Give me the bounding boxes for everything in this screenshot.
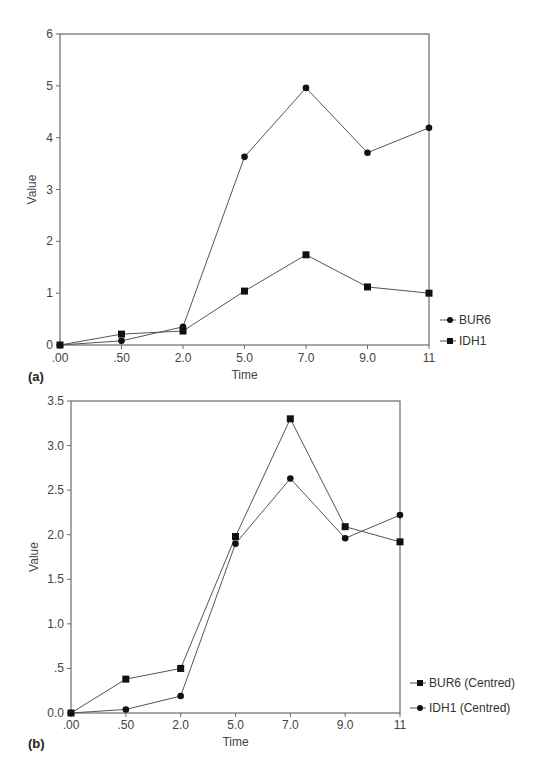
- circle-marker-icon: [364, 149, 371, 156]
- circle-marker-icon: [342, 535, 349, 542]
- y-tick-label: 3: [46, 183, 53, 197]
- square-marker-icon: [177, 665, 184, 672]
- square-marker-icon: [122, 676, 129, 683]
- series-idh1: [57, 251, 433, 348]
- square-marker-icon: [57, 342, 64, 349]
- legend-label: BUR6: [459, 313, 491, 327]
- square-marker-icon: [287, 415, 294, 422]
- y-axis-label: Value: [27, 542, 41, 572]
- x-axis-label: Time: [222, 735, 249, 749]
- x-tick-label: 5.0: [236, 351, 253, 365]
- circle-marker-icon: [417, 705, 423, 711]
- y-tick-label: 1.0: [47, 617, 64, 631]
- legend-label: IDH1: [459, 334, 487, 348]
- circle-marker-icon: [447, 317, 453, 323]
- x-tick-label: 7.0: [282, 718, 299, 732]
- x-tick-label: .50: [117, 718, 134, 732]
- y-tick-label: 5: [46, 79, 53, 93]
- series-line: [71, 419, 400, 713]
- y-tick-label: 2.0: [47, 528, 64, 542]
- circle-marker-icon: [123, 706, 130, 713]
- y-tick-label: 1: [46, 286, 53, 300]
- circle-marker-icon: [118, 338, 125, 345]
- square-marker-icon: [447, 338, 453, 344]
- chart-panel-a: 0123456.00.502.05.07.09.011TimeValue(a)B…: [25, 27, 491, 384]
- chart-panel-b: 0.0.51.01.52.02.53.03.5.00.502.05.07.09.…: [27, 394, 515, 751]
- panel-label: (b): [28, 736, 45, 751]
- circle-marker-icon: [426, 125, 433, 132]
- square-marker-icon: [364, 283, 371, 290]
- plot-frame: [60, 34, 429, 345]
- circle-marker-icon: [303, 85, 310, 92]
- y-tick-label: 3.0: [47, 439, 64, 453]
- legend-item: IDH1 (Centred): [410, 701, 510, 715]
- plot-frame: [71, 401, 400, 713]
- x-tick-label: 11: [394, 718, 407, 732]
- square-marker-icon: [303, 251, 310, 258]
- x-tick-label: 5.0: [227, 718, 244, 732]
- square-marker-icon: [397, 538, 404, 545]
- x-axis-label: Time: [231, 368, 258, 382]
- figure: 0123456.00.502.05.07.09.011TimeValue(a)B…: [0, 0, 534, 776]
- x-tick-label: 2.0: [175, 351, 192, 365]
- series-line: [71, 479, 400, 713]
- y-tick-label: 1.5: [47, 572, 64, 586]
- circle-marker-icon: [232, 540, 239, 547]
- y-tick-label: 2.5: [47, 483, 64, 497]
- circle-marker-icon: [241, 154, 248, 161]
- series-idh1-centred: [68, 475, 404, 716]
- x-tick-label: 9.0: [359, 351, 376, 365]
- y-tick-label: 3.5: [47, 394, 64, 408]
- square-marker-icon: [118, 331, 125, 338]
- legend-item: BUR6 (Centred): [410, 676, 515, 690]
- series-line: [60, 88, 429, 345]
- square-marker-icon: [232, 533, 239, 540]
- legend-label: BUR6 (Centred): [429, 676, 515, 690]
- square-marker-icon: [180, 328, 187, 335]
- x-tick-label: 7.0: [298, 351, 315, 365]
- y-tick-label: 4: [46, 131, 53, 145]
- legend-item: BUR6: [440, 313, 491, 327]
- series-line: [60, 255, 429, 345]
- y-axis-label: Value: [25, 174, 39, 204]
- y-tick-label: 2: [46, 234, 53, 248]
- square-marker-icon: [426, 290, 433, 297]
- square-marker-icon: [342, 523, 349, 530]
- x-tick-label: 2.0: [172, 718, 189, 732]
- circle-marker-icon: [287, 475, 294, 482]
- y-tick-label: .5: [54, 661, 64, 675]
- square-marker-icon: [417, 680, 423, 686]
- circle-marker-icon: [177, 693, 184, 700]
- legend-item: IDH1: [440, 334, 487, 348]
- square-marker-icon: [241, 288, 248, 295]
- circle-marker-icon: [397, 512, 404, 519]
- series-bur6: [57, 85, 433, 349]
- x-tick-label: .50: [113, 351, 130, 365]
- x-tick-label: 9.0: [337, 718, 354, 732]
- y-tick-label: 6: [46, 27, 53, 41]
- y-tick-label: 0: [46, 338, 53, 352]
- legend-label: IDH1 (Centred): [429, 701, 510, 715]
- series-bur6-centred: [68, 415, 404, 716]
- panel-label: (a): [28, 369, 44, 384]
- x-tick-label: .00: [63, 718, 80, 732]
- x-tick-label: 11: [423, 351, 436, 365]
- circle-marker-icon: [68, 710, 75, 717]
- x-tick-label: .00: [52, 351, 69, 365]
